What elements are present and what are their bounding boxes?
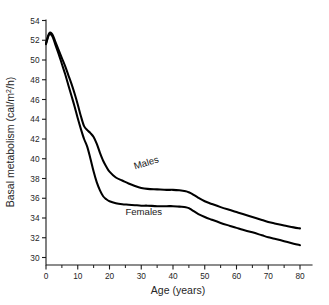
y-tick-label: 32: [30, 233, 40, 243]
y-tick-label: 46: [30, 95, 40, 105]
x-tick-label: 70: [264, 271, 274, 281]
x-tick-label: 40: [168, 271, 178, 281]
y-tick-label: 40: [30, 154, 40, 164]
y-tick-label: 38: [30, 174, 40, 184]
y-tick-label: 44: [30, 114, 40, 124]
y-axis-title-tail: /h): [4, 77, 16, 89]
x-tick-label: 0: [44, 271, 49, 281]
y-tick-label: 42: [30, 134, 40, 144]
x-tick-label: 20: [105, 271, 115, 281]
x-axis-title: Age (years): [151, 284, 205, 296]
basal-metabolism-line-chart: 30323436384042444648505254 0102030405060…: [0, 0, 329, 305]
x-tick-label: 80: [295, 271, 305, 281]
y-tick-label: 54: [30, 16, 40, 26]
series-line-males: [46, 33, 300, 229]
y-tick-label: 52: [30, 35, 40, 45]
x-axis-ticks: 01020304050607080: [44, 265, 305, 281]
y-axis-title-text: Basal metabolism (cal/m: [4, 93, 16, 208]
data-series: [46, 33, 300, 246]
chart-container: 30323436384042444648505254 0102030405060…: [0, 0, 329, 305]
y-tick-label: 48: [30, 75, 40, 85]
y-tick-label: 50: [30, 55, 40, 65]
y-axis-title: Basal metabolism (cal/m2/h): [4, 77, 16, 208]
y-tick-label: 34: [30, 213, 40, 223]
x-tick-label: 50: [200, 271, 210, 281]
x-tick-label: 30: [137, 271, 147, 281]
plot-area: 30323436384042444648505254 0102030405060…: [30, 16, 312, 282]
series-line-females: [46, 34, 300, 245]
y-tick-label: 36: [30, 193, 40, 203]
series-label-females: Females: [125, 206, 162, 217]
y-tick-label: 30: [30, 253, 40, 263]
x-tick-label: 60: [232, 271, 242, 281]
x-tick-label: 10: [73, 271, 83, 281]
svg-text:Basal metabolism (cal/m2/h): Basal metabolism (cal/m2/h): [4, 77, 16, 208]
series-label-males: Males: [132, 153, 160, 171]
y-axis-ticks: 30323436384042444648505254: [30, 16, 46, 263]
